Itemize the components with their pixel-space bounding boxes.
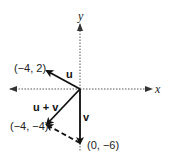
vector-u-translated-dashed — [47, 125, 80, 143]
coord-label-v: (0, −6) — [87, 139, 119, 151]
vector-diagram: x y u v u + v (−4, 2) (−4, −4) (0, −6) — [0, 0, 169, 168]
label-u: u — [66, 68, 73, 80]
vector-u — [47, 71, 80, 89]
x-axis-label: x — [154, 82, 161, 96]
label-u-plus-v: u + v — [33, 101, 59, 113]
coord-label-u-plus-v: (−4, −4) — [10, 120, 49, 132]
axes — [10, 24, 152, 152]
y-axis-label: y — [77, 9, 84, 23]
coord-label-u: (−4, 2) — [14, 62, 46, 74]
label-v: v — [83, 111, 90, 123]
